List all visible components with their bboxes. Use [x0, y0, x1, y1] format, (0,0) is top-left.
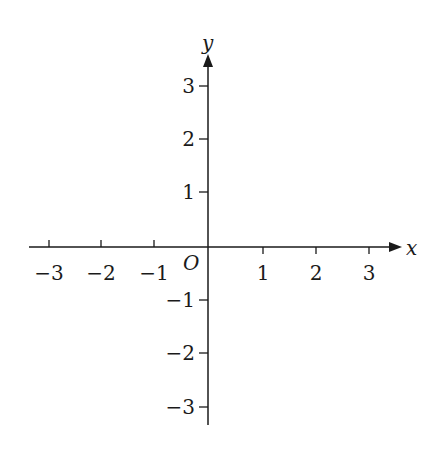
- y-axis-arrow-icon: [203, 54, 213, 67]
- y-tick-label: −2: [166, 341, 195, 365]
- x-axis-arrow-icon: [389, 242, 402, 252]
- y-tick-label: 2: [182, 127, 195, 151]
- coordinate-plane: y x O −3 −2 −1 1 2 3 3 2 1 −1 −2 −3: [0, 0, 440, 452]
- x-tick-label: −2: [86, 261, 115, 285]
- x-tick-label: 3: [363, 261, 376, 285]
- y-tick-label: −3: [166, 395, 195, 419]
- y-axis-label: y: [201, 31, 214, 55]
- y-tick-label: 1: [182, 180, 195, 204]
- x-tick-label: −3: [34, 261, 63, 285]
- x-tick-label: −1: [139, 261, 168, 285]
- origin-label: O: [183, 251, 199, 275]
- y-tick-label: −1: [166, 288, 195, 312]
- y-tick-label: 3: [182, 74, 195, 98]
- x-tick-label: 2: [310, 261, 323, 285]
- x-axis-label: x: [406, 236, 417, 260]
- x-tick-label: 1: [257, 261, 270, 285]
